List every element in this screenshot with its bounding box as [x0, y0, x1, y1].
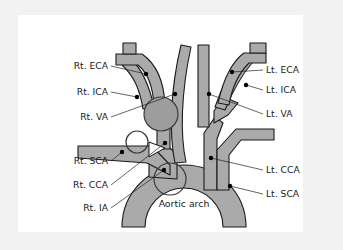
- anchor-dot-lt-eca: [230, 70, 234, 74]
- leader-lt-ica: [246, 85, 263, 90]
- label-rt-eca: Rt. ECA: [74, 60, 109, 71]
- right-eca-superior-notch: [123, 43, 136, 54]
- figure-frame: Rt. ECA Rt. ICA Rt. VA Rt. SCA Rt. CCA R…: [0, 0, 343, 250]
- left-labels: Rt. ECA Rt. ICA Rt. VA Rt. SCA Rt. CCA R…: [73, 60, 109, 213]
- right-carotid-bifurcation-marker: [144, 97, 178, 131]
- left-vertebral-artery: [198, 45, 209, 127]
- label-lt-va: Lt. VA: [266, 108, 293, 119]
- aortic-arch-diagram: Rt. ECA Rt. ICA Rt. VA Rt. SCA Rt. CCA R…: [18, 15, 303, 232]
- anchor-dot-rt-eca: [144, 72, 148, 76]
- anchor-dot-rt-cca: [163, 141, 167, 145]
- anchor-dot-rt-va: [173, 92, 177, 96]
- anchor-dot-lt-ica: [244, 83, 248, 87]
- label-rt-va: Rt. VA: [80, 111, 109, 122]
- left-subclavian-artery: [217, 129, 274, 190]
- anchor-dot-rt-ia: [162, 168, 166, 172]
- anchor-dot-lt-cca: [209, 156, 213, 160]
- label-lt-eca: Lt. ECA: [266, 64, 300, 75]
- label-lt-sca: Lt. SCA: [266, 188, 300, 199]
- label-lt-ica: Lt. ICA: [266, 84, 297, 95]
- anchor-dot-lt-va: [207, 92, 211, 96]
- label-rt-sca: Rt. SCA: [74, 155, 109, 166]
- left-eca-superior-notch: [250, 43, 266, 53]
- anchor-dot-rt-sca: [120, 150, 124, 154]
- figure-panel: Rt. ECA Rt. ICA Rt. VA Rt. SCA Rt. CCA R…: [18, 15, 303, 232]
- anchor-dot-lt-sca: [228, 184, 232, 188]
- anchor-dot-rt-ica: [135, 95, 139, 99]
- leader-rt-ica: [111, 92, 137, 97]
- label-rt-ica: Rt. ICA: [77, 86, 109, 97]
- label-rt-cca: Rt. CCA: [73, 179, 109, 190]
- label-rt-ia: Rt. IA: [83, 202, 109, 213]
- left-external-carotid-artery: [218, 53, 266, 105]
- label-aortic-arch: Aortic arch: [159, 198, 210, 209]
- label-lt-cca: Lt. CCA: [266, 164, 300, 175]
